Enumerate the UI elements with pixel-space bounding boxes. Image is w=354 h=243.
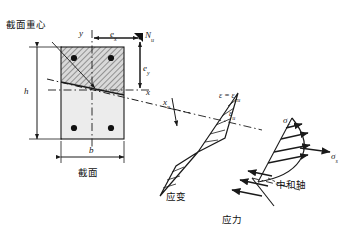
xn-leader (172, 98, 177, 126)
axis-y-label: y (79, 29, 83, 38)
rebar-dot (108, 55, 114, 61)
height-label: h (24, 87, 29, 96)
tension-baseline (252, 178, 274, 206)
neutral-depth-label: xn (163, 92, 170, 110)
tension-arrow (248, 171, 272, 176)
strain-caption: 应变 (166, 192, 186, 202)
ecc-y-label: ey (143, 58, 150, 76)
rebar-dot (108, 125, 114, 131)
figure-canvas: 截面重心 y x ex Nu ey h b 截面 xn ε = εcu εu 应… (0, 0, 354, 243)
stress-arrow (281, 133, 308, 139)
strain-lower-wedge (160, 152, 198, 196)
stress-caption: 应力 (222, 215, 242, 225)
load-label: Nu (145, 25, 154, 43)
ecc-x-label: ex (110, 24, 117, 42)
axis-x-label: x (146, 88, 150, 97)
neutral-axis-label: 中和轴 (276, 180, 306, 190)
width-label: b (89, 146, 94, 155)
tension-arrow (232, 190, 262, 196)
concrete-stress-label: σc (283, 110, 290, 128)
rebar-dot (71, 55, 77, 61)
stress-arrow (268, 155, 308, 163)
section-caption: 截面 (78, 168, 98, 178)
centroid-label: 截面重心 (6, 20, 46, 30)
bottom-strain-label: εu (229, 103, 235, 121)
top-strain-label: ε = εcu (219, 85, 240, 103)
diagram-svg (0, 0, 354, 243)
stress-panel (232, 118, 330, 206)
steel-stress-label: σs (331, 146, 338, 164)
strain-panel (160, 93, 262, 196)
rebar-dot (71, 125, 77, 131)
